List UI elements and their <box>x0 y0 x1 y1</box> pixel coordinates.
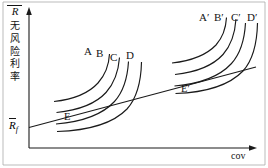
curve-label-C-prime: C′ <box>231 12 241 23</box>
y-axis-symbol: R <box>7 6 23 17</box>
figure-container: R 无 风 险 利 率 Rf cov A B C D A′ B′ C′ D′ E… <box>0 0 268 168</box>
tangency-label-E-text: E <box>64 111 70 122</box>
y-axis-overbar <box>7 5 22 6</box>
indifference-curve-B-prime <box>175 19 236 75</box>
risk-free-rate-label: Rf <box>9 119 18 134</box>
indifference-curve-C-prime <box>175 23 246 86</box>
y-axis-label-cn-4: 利 <box>7 58 23 71</box>
tangency-label-E-prime-mark: ′ <box>187 83 189 94</box>
x-axis-label: cov <box>231 151 245 161</box>
y-axis-label-cn-5: 率 <box>7 71 23 84</box>
indifference-curve-A <box>54 54 110 102</box>
y-axis-label: R 无 风 险 利 率 <box>7 6 23 84</box>
curve-label-A-prime-text: A <box>199 11 207 23</box>
y-axis-label-cn-1: 无 <box>7 20 23 33</box>
curve-label-A: A <box>84 46 92 57</box>
curve-label-D-prime-text: D <box>247 11 255 23</box>
curve-label-D-prime-mark: ′ <box>255 11 257 23</box>
curve-label-D: D <box>126 50 134 61</box>
y-axis-label-cn-3: 险 <box>7 46 23 59</box>
curve-label-A-prime-mark: ′ <box>207 11 209 23</box>
curve-label-B-prime-mark: ′ <box>221 11 223 23</box>
x-axis <box>29 145 257 151</box>
curve-label-A-text: A <box>84 45 92 57</box>
indifference-curve-chart <box>0 0 268 168</box>
tangency-label-E: E <box>64 112 70 123</box>
curve-label-B-text: B <box>96 47 103 59</box>
x-axis-arrow-icon <box>249 145 257 151</box>
indifference-curve-A-prime <box>172 18 227 64</box>
y-axis-arrow-icon <box>26 7 32 15</box>
curve-label-C-prime-mark: ′ <box>238 11 240 23</box>
y-axis-symbol-text: R <box>12 5 19 17</box>
curve-label-B: B <box>96 48 103 59</box>
rf-subscript: f <box>16 125 18 134</box>
curve-label-C: C <box>110 52 117 63</box>
rf-symbol: R <box>9 119 16 131</box>
indifference-curve-B <box>57 58 120 113</box>
curve-label-D-text: D <box>126 49 134 61</box>
rf-overbar <box>9 118 16 119</box>
curve-label-B-prime: B′ <box>214 12 224 23</box>
curve-label-D-prime: D′ <box>247 12 257 23</box>
curve-label-C-text: C <box>110 51 117 63</box>
tangency-label-E-prime: E′ <box>181 84 190 95</box>
curve-label-A-prime: A′ <box>199 12 209 23</box>
y-axis-label-cn-2: 风 <box>7 33 23 46</box>
